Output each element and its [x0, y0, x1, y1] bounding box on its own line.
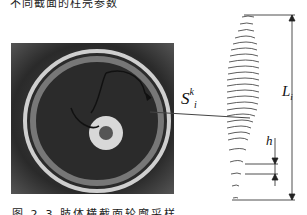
stacked-contours-graphic — [220, 0, 307, 215]
figure-caption: 图 2-3 肢体横截面轮廓采样 — [12, 205, 177, 215]
length-label: Li — [282, 83, 293, 102]
spacing-label: h — [266, 133, 273, 149]
section-area-label: Ski — [181, 88, 197, 110]
